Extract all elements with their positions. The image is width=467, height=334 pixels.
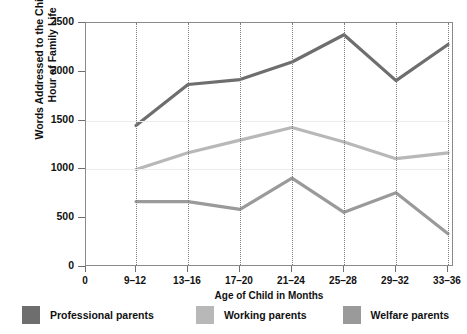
y-tick-2500 bbox=[78, 22, 85, 23]
plot-inner bbox=[86, 23, 452, 265]
y-tick-label-1000: 1000 bbox=[36, 162, 74, 172]
x-tick-label-3: 21–24 bbox=[277, 275, 305, 286]
grid-line-4 bbox=[344, 23, 346, 265]
grid-line-6 bbox=[448, 23, 450, 265]
x-tick-6 bbox=[447, 266, 448, 272]
legend-item-welfare: Welfare parents bbox=[343, 306, 450, 324]
grid-line-3 bbox=[292, 23, 294, 265]
y-tick-label-2000: 2000 bbox=[36, 65, 74, 75]
legend-label-professional: Professional parents bbox=[50, 309, 154, 321]
x-axis-title: Age of Child in Months bbox=[85, 290, 453, 301]
y-tick-1000 bbox=[78, 168, 85, 169]
legend: Professional parents Working parents Wel… bbox=[22, 306, 449, 324]
grid-line-0 bbox=[136, 23, 138, 265]
legend-swatch-working bbox=[196, 306, 214, 324]
x-tick-label-origin: 0 bbox=[82, 275, 88, 286]
y-tick-label-0: 0 bbox=[36, 260, 74, 270]
y-tick-500 bbox=[78, 217, 85, 218]
x-tick-1 bbox=[187, 266, 188, 272]
chart-root: Words Addressed to the Child per Hour of… bbox=[0, 0, 467, 334]
x-tick-label-1: 13–16 bbox=[173, 275, 201, 286]
legend-item-working: Working parents bbox=[196, 306, 307, 324]
x-tick-label-6: 33–36 bbox=[433, 275, 461, 286]
x-tick-label-5: 29–32 bbox=[381, 275, 409, 286]
grid-line-2 bbox=[240, 23, 242, 265]
y-tick-1500 bbox=[78, 120, 85, 121]
y-tick-2000 bbox=[78, 71, 85, 72]
legend-swatch-welfare bbox=[343, 306, 361, 324]
x-tick-origin bbox=[85, 266, 86, 272]
legend-label-working: Working parents bbox=[224, 309, 307, 321]
y-tick-label-1500: 1500 bbox=[36, 114, 74, 124]
plot-area bbox=[85, 22, 453, 266]
y-tick-label-2500: 2500 bbox=[36, 16, 74, 26]
x-tick-0 bbox=[135, 266, 136, 272]
x-tick-5 bbox=[395, 266, 396, 272]
legend-item-professional: Professional parents bbox=[22, 306, 154, 324]
x-tick-label-0: 9–12 bbox=[124, 275, 146, 286]
legend-label-welfare: Welfare parents bbox=[371, 309, 450, 321]
y-tick-label-500: 500 bbox=[36, 211, 74, 221]
legend-swatch-professional bbox=[22, 306, 40, 324]
y-tick-0 bbox=[78, 266, 85, 267]
grid-line-5 bbox=[396, 23, 398, 265]
x-tick-4 bbox=[343, 266, 344, 272]
x-tick-label-2: 17–20 bbox=[225, 275, 253, 286]
grid-line-1 bbox=[188, 23, 190, 265]
x-tick-label-4: 25–28 bbox=[329, 275, 357, 286]
x-tick-2 bbox=[239, 266, 240, 272]
x-tick-3 bbox=[291, 266, 292, 272]
